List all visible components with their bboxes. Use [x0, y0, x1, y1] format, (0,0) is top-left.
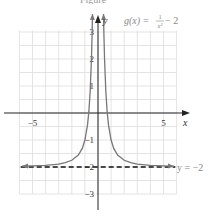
curve-end-arrow-icon — [168, 164, 174, 169]
x-tick-label: −5 — [28, 118, 38, 128]
x-axis-label: x — [182, 117, 188, 128]
function-label-denominator: x² — [157, 22, 164, 29]
function-graph: −55321−1−2−3 y = −2 x y g(x) = 1x² − 2 — [0, 0, 222, 217]
y-tick-label: −3 — [84, 189, 94, 199]
curve-end-arrow-icon — [90, 14, 95, 20]
curve-end-arrow-icon — [22, 164, 28, 169]
y-axis-label: y — [102, 15, 108, 26]
asymptote-label: y = −2 — [177, 162, 203, 173]
y-axis-arrow-icon — [95, 15, 101, 23]
function-label-prefix: g(x) = — [124, 15, 149, 27]
function-label-suffix: − 2 — [165, 15, 178, 26]
function-label: g(x) = 1x² − 2 — [124, 13, 178, 29]
x-axis-arrow-icon — [182, 110, 190, 116]
function-label-numerator: 1 — [158, 13, 161, 20]
x-tick-label: 5 — [161, 118, 166, 128]
